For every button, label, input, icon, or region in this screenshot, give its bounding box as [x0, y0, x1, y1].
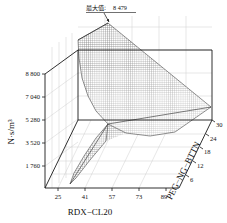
max-value-text: 8 479 [113, 4, 127, 11]
z-tick-4: 1 760 [25, 162, 40, 169]
z-tick-labels: 8 800 7 040 5 280 3 520 1 760 [25, 70, 40, 169]
y-tick-0: 6 [190, 176, 194, 183]
x-tick-1: 41 [82, 193, 89, 200]
y-axis-title: PEG−NG−BTTN [164, 140, 202, 202]
z-tick-0: 8 800 [25, 70, 40, 77]
z-tick-2: 5 280 [25, 116, 40, 123]
x-tick-labels: 25 41 57 73 89 [55, 193, 168, 200]
x-tick-0: 25 [55, 193, 62, 200]
max-value-annotation: 最大值: 8 479 [86, 4, 136, 22]
z-axis-title: N·s/m³ [6, 119, 16, 145]
x-tick-2: 57 [109, 193, 116, 200]
surface-front-fold [70, 124, 108, 184]
z-tick-3: 3 520 [25, 139, 40, 146]
plot-canvas: 8 800 7 040 5 280 3 520 1 760 25 41 57 7… [0, 0, 227, 223]
y-tick-1: 12 [197, 162, 204, 169]
y-tick-3: 24 [210, 135, 217, 142]
x-tick-3: 73 [136, 193, 143, 200]
wall-grid-left [45, 33, 78, 188]
max-label-text: 最大值: [86, 4, 106, 12]
x-axis-title: RDX−CL20 [68, 207, 113, 217]
surface-chart-figure: 8 800 7 040 5 280 3 520 1 760 25 41 57 7… [0, 0, 227, 223]
z-tick-1: 7 040 [25, 93, 40, 100]
y-tick-4: 30 [216, 121, 223, 128]
y-tick-2: 18 [204, 148, 211, 155]
